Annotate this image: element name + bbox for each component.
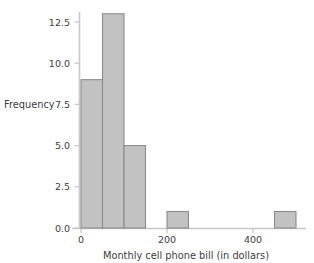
y-tick-label-3: 7.5	[55, 99, 70, 110]
y-tick-label-4: 10.0	[49, 58, 70, 69]
y-tick-label-5: 12.5	[49, 17, 70, 28]
histogram-figure: 0.0 2.5 5.0 7.5 10.0 12.5 0 200 400 Freq…	[0, 0, 314, 263]
x-tick-label-1: 200	[158, 234, 176, 245]
y-axis-title: Frequency	[4, 99, 55, 110]
y-tick-label-2: 5.0	[55, 140, 70, 151]
y-tick-label-1: 2.5	[55, 181, 70, 192]
x-axis-title: Monthly cell phone bill (in dollars)	[103, 250, 269, 261]
histogram-bar	[275, 212, 297, 228]
histogram-bar	[124, 146, 146, 228]
histogram-bar	[81, 80, 103, 228]
histogram-bar	[103, 14, 125, 228]
x-tick-label-2: 400	[244, 234, 262, 245]
histogram-bar	[167, 212, 189, 228]
x-tick-label-0: 0	[78, 234, 84, 245]
y-tick-label-0: 0.0	[55, 223, 70, 234]
histogram-bars	[81, 14, 296, 228]
histogram-plot: 0.0 2.5 5.0 7.5 10.0 12.5 0 200 400 Freq…	[0, 0, 314, 263]
